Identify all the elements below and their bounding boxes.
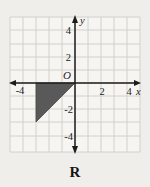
y-tick-label-2: 2	[66, 52, 71, 63]
y-tick-label-4: 4	[66, 25, 72, 36]
coordinate-plane-svg: y x O 4 2 -2 -4 -4 2 4	[0, 0, 150, 160]
figure-caption: R	[0, 158, 150, 187]
graph-figure: y x O 4 2 -2 -4 -4 2 4 R	[0, 0, 150, 187]
y-axis-name-label: y	[79, 15, 85, 26]
x-tick-label-2: 2	[99, 86, 104, 97]
y-tick-label-neg4: -4	[64, 131, 73, 142]
figure-caption-label: R	[69, 165, 80, 180]
x-tick-label-4: 4	[126, 86, 132, 97]
y-tick-label-neg2: -2	[64, 104, 73, 115]
origin-label: O	[63, 69, 71, 81]
coordinate-plane: y x O 4 2 -2 -4 -4 2 4	[0, 0, 150, 160]
x-axis-name-label: x	[135, 86, 141, 97]
x-tick-label-neg4: -4	[16, 85, 25, 96]
